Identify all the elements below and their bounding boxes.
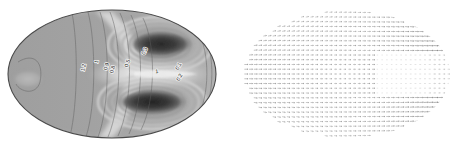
contour-fill-group <box>0 0 231 147</box>
vector-arrowhead <box>432 36 433 37</box>
vector-arrowhead <box>442 45 443 46</box>
quiver-plot <box>231 0 462 147</box>
figure-root: 1.2 1 0.9 0.8 0.5 0.3 1 0.1 0.2 <box>0 0 462 147</box>
vector-arrowhead <box>442 102 443 103</box>
contour-plot: 1.2 1 0.9 0.8 0.5 0.3 1 0.1 0.2 <box>0 0 231 147</box>
vector-arrowhead <box>432 111 433 112</box>
contour-panel: 1.2 1 0.9 0.8 0.5 0.3 1 0.1 0.2 <box>0 0 231 147</box>
vector-arrowhead <box>437 41 438 42</box>
vector-arrowhead <box>418 121 419 122</box>
vector-arrowhead <box>418 26 419 27</box>
vector-arrowhead <box>449 83 450 84</box>
vector-arrows-group <box>244 12 450 137</box>
quiver-panel <box>231 0 462 147</box>
vector-arrowhead <box>437 106 438 107</box>
vector-arrowhead <box>449 64 450 65</box>
